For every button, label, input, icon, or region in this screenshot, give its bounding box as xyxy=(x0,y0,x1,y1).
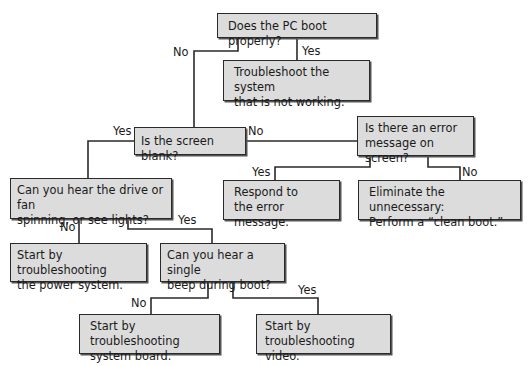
node-text-line2: spinning, or see lights? xyxy=(17,213,171,228)
node-respond-error: Respond to the error message. xyxy=(223,180,340,220)
node-text-line2: the power system. xyxy=(17,278,146,293)
node-text-line1: Start by troubleshooting xyxy=(17,248,146,278)
edge-label-error-no: No xyxy=(462,166,478,179)
edge-label-boot-no: No xyxy=(173,46,189,59)
edge-label-drive-no: No xyxy=(60,221,76,234)
edge-label-blank-no: No xyxy=(248,125,264,138)
edge-label-boot-yes: Yes xyxy=(302,45,320,58)
node-video: Start by troubleshooting video. xyxy=(256,314,391,354)
node-text-line2: beep during boot? xyxy=(167,278,284,293)
node-power-system: Start by troubleshooting the power syste… xyxy=(10,243,147,282)
node-text-line1: Eliminate the unnecessary: xyxy=(369,185,520,215)
node-text-line1: Is there an error xyxy=(365,121,473,136)
node-system-board: Start by troubleshooting system board. xyxy=(79,314,220,354)
node-text-line1: Respond to xyxy=(234,185,339,200)
node-single-beep-question: Can you hear a single beep during boot? xyxy=(160,243,285,282)
node-text-line2: the error message. xyxy=(234,200,339,230)
node-screen-blank-question: Is the screen blank? xyxy=(134,127,246,155)
node-text-line1: Troubleshoot the system xyxy=(234,65,369,95)
edge-label-error-yes: Yes xyxy=(252,166,270,179)
node-text-line2: troubleshooting video. xyxy=(265,334,390,364)
edge-label-blank-yes: Yes xyxy=(113,125,131,138)
node-troubleshoot-system: Troubleshoot the system that is not work… xyxy=(223,60,370,101)
node-text-line2: Perform a “clean boot.” xyxy=(369,215,520,230)
node-text-line1: Can you hear a single xyxy=(167,248,284,278)
node-hear-drive-question: Can you hear the drive or fan spinning, … xyxy=(10,178,172,219)
node-text-line1: Start by troubleshooting xyxy=(90,319,219,349)
node-text-line1: Start by xyxy=(265,319,390,334)
node-text-line1: Can you hear the drive or fan xyxy=(17,183,171,213)
edge-label-drive-yes: Yes xyxy=(178,214,196,227)
node-text-line2: that is not working. xyxy=(234,95,369,110)
node-boot-question: Does the PC boot properly? xyxy=(217,13,377,38)
node-clean-boot: Eliminate the unnecessary: Perform a “cl… xyxy=(358,180,521,220)
edge-label-beep-no: No xyxy=(131,297,147,310)
node-error-message-question: Is there an error message on screen? xyxy=(357,116,474,156)
edge-label-beep-yes: Yes xyxy=(298,284,316,297)
node-text-line2: message on screen? xyxy=(365,136,473,166)
node-text-line2: system board. xyxy=(90,349,219,364)
